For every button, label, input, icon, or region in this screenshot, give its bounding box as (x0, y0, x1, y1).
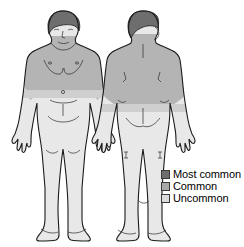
back-lumbar-transition (92, 104, 198, 112)
back-region-common (92, 34, 196, 108)
legend-label-most-common: Most common (173, 169, 241, 180)
legend-swatch-common (161, 182, 170, 191)
legend-label-common: Common (173, 181, 217, 192)
body-diagram (0, 0, 244, 247)
legend-swatch-uncommon (161, 194, 170, 203)
posterior-view (90, 0, 244, 247)
legend-item-most-common: Most common (161, 169, 244, 180)
legend-swatch-most-common (161, 170, 170, 179)
legend-item-common: Common (161, 181, 244, 192)
legend-item-uncommon: Uncommon (161, 193, 244, 204)
body-distribution-figure: Most common Common Uncommon (0, 0, 244, 247)
legend: Most common Common Uncommon (161, 169, 244, 205)
legend-label-uncommon: Uncommon (173, 193, 228, 204)
